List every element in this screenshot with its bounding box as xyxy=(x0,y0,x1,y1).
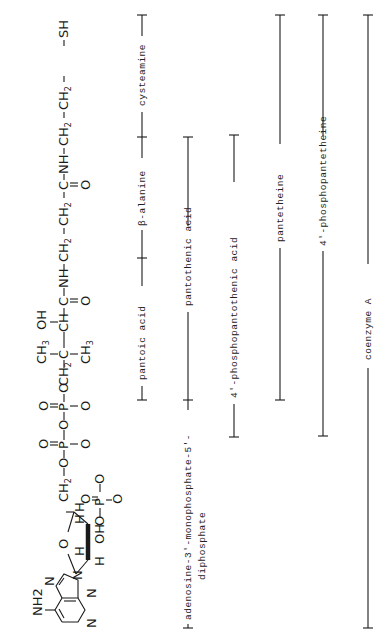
phosphate-3-p: P xyxy=(92,498,107,506)
ch2-c: CH2 xyxy=(56,122,73,146)
phosphorus-1: P xyxy=(56,441,71,449)
structure-canvas: NH2 N N N N O H H H H OH O O P O O CH2 O… xyxy=(0,0,389,636)
brackets xyxy=(137,15,373,628)
methyl-top: CH3 xyxy=(34,340,51,364)
amide-c-1: C xyxy=(56,297,71,306)
p2-double-o: O xyxy=(36,401,51,411)
label-pantetheine: pantetheine xyxy=(275,174,286,242)
adenine-n9: N xyxy=(70,570,85,580)
label-pantoic-acid: pantoic acid xyxy=(137,306,148,380)
hydroxyl-oh: OH xyxy=(34,310,49,330)
label-adenosine-diphosphate: adenosine-3′-monophosphate-5′- xyxy=(183,434,194,620)
bridge-o1: O xyxy=(56,458,71,468)
adenine-n7: N xyxy=(42,576,57,586)
methyl-bottom: CH3 xyxy=(78,340,95,364)
label-phosphopantothenic-acid: 4′-phosphopantothenic acid xyxy=(229,237,240,398)
label-beta-alanine: β-alanine xyxy=(137,170,148,226)
p1-double-o: O xyxy=(36,439,51,449)
label-coenzyme-a: coenzyme A xyxy=(363,298,374,360)
amide-o-2: O xyxy=(78,180,93,190)
amino-group-label: NH2 xyxy=(30,588,45,616)
ch2-d: CH2 xyxy=(56,86,73,110)
pantoate-ch2: CH2 xyxy=(56,362,73,386)
phosphate-3-o-minus: O xyxy=(110,494,125,504)
bridge-o2: O xyxy=(56,420,71,430)
ribose-3-oxygen: O xyxy=(92,516,107,526)
adenine-n3: N xyxy=(84,588,99,598)
ch2-5prime: CH2 xyxy=(56,478,73,502)
label-pantothenic-acid: pantothenic acid xyxy=(183,207,194,306)
thiol-sh: SH xyxy=(56,20,71,38)
phosphorus-2: P xyxy=(56,403,71,411)
amide-nh-2: NH xyxy=(56,155,71,175)
ribose-h1: H xyxy=(92,556,107,566)
ribose-ring-oxygen: O xyxy=(56,539,71,549)
ch2-a: CH2 xyxy=(56,238,73,262)
ribose-h3: H xyxy=(72,514,87,524)
hydroxymethine-ch: CH xyxy=(56,313,71,332)
ch2-b: CH2 xyxy=(56,202,73,226)
label-cysteamine: cysteamine xyxy=(137,44,148,106)
label-adenosine-diphosphate-line2: diphosphate xyxy=(197,512,208,580)
p2-o-minus: O xyxy=(78,401,93,411)
ribose-2-hydroxyl: OH xyxy=(92,524,107,544)
quaternary-c: C xyxy=(56,350,71,359)
p1-o-minus: O xyxy=(78,439,93,449)
amide-c-2: C xyxy=(56,181,71,190)
amide-nh-1: NH xyxy=(56,269,71,289)
amide-o-1: O xyxy=(78,296,93,306)
coenzyme-a-diagram: NH2 N N N N O H H H H OH O O P O O CH2 O… xyxy=(0,0,389,636)
phosphate-3-o-minus-2: O xyxy=(92,474,107,484)
adenine-n1: N xyxy=(84,618,99,628)
phosphate-3-doubleO: O xyxy=(78,494,93,504)
ribose-h2: H xyxy=(72,546,87,556)
label-phosphopantetheine: 4′-phosphopantetheine xyxy=(318,116,329,246)
